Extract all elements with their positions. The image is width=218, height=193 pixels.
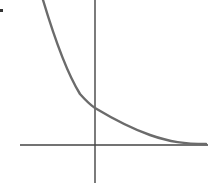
decay-curve — [43, 0, 206, 144]
exponential-decay-plot — [0, 0, 218, 193]
